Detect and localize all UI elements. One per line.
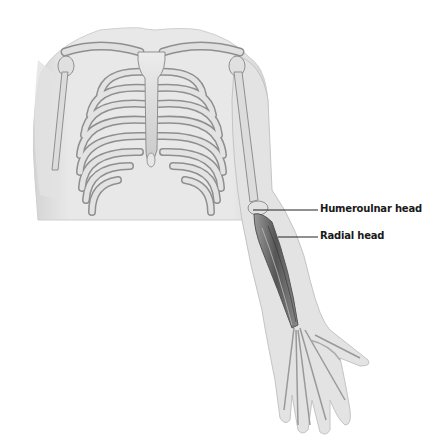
anatomy-diagram: Humeroulnar head Radial head xyxy=(0,0,437,446)
label-radial-head: Radial head xyxy=(320,230,384,241)
anatomy-illustration xyxy=(0,0,437,446)
arm-silhouette xyxy=(232,55,369,434)
label-humeroulnar-head: Humeroulnar head xyxy=(320,203,422,214)
